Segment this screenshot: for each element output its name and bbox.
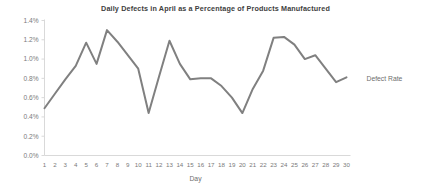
x-axis-tick-label: 7 — [105, 161, 109, 168]
x-axis-tick-label: 19 — [229, 161, 236, 168]
x-axis-tick-label: 5 — [84, 161, 88, 168]
x-axis-tick-label: 26 — [301, 161, 308, 168]
x-axis-tick-label: 13 — [166, 161, 173, 168]
x-axis-title: Day — [189, 175, 202, 183]
y-axis-tick-label: 1.2% — [23, 36, 38, 43]
x-axis-tick-label: 20 — [239, 161, 246, 168]
x-axis-tick-label: 8 — [116, 161, 120, 168]
x-axis-tick-label: 1 — [43, 161, 47, 168]
x-axis-tick-label: 14 — [176, 161, 183, 168]
x-axis-tick-label: 27 — [312, 161, 319, 168]
x-axis-tick-label: 17 — [208, 161, 215, 168]
x-axis-tick-label: 11 — [145, 161, 152, 168]
x-axis-tick-label: 9 — [126, 161, 130, 168]
x-axis-tick-label: 22 — [260, 161, 267, 168]
x-axis-tick-label: 6 — [95, 161, 99, 168]
x-axis-tick-label: 23 — [270, 161, 277, 168]
x-axis-tick-label: 21 — [249, 161, 256, 168]
x-axis-tick-label: 10 — [135, 161, 142, 168]
x-axis-tick-label: 3 — [64, 161, 68, 168]
x-axis-tick-label: 28 — [322, 161, 329, 168]
legend-label-defect-rate: Defect Rate — [367, 75, 403, 82]
y-axis-tick-label: 1.0% — [23, 55, 38, 62]
y-axis-tick-label: 0.8% — [23, 75, 38, 82]
x-axis: 1234567891011121314151617181920212223242… — [43, 156, 351, 183]
series-line-defect-rate — [45, 30, 347, 113]
x-axis-tick-label: 24 — [281, 161, 288, 168]
x-axis-tick-label: 16 — [197, 161, 204, 168]
data-series-group — [45, 30, 347, 113]
defect-rate-line-chart: Daily Defects in April as a Percentage o… — [0, 0, 431, 194]
x-axis-tick-label: 30 — [343, 161, 350, 168]
y-axis-tick-label: 0.6% — [23, 94, 38, 101]
chart-legend: Defect Rate — [367, 75, 403, 82]
x-axis-tick-label: 18 — [218, 161, 225, 168]
x-axis-tick-label: 4 — [74, 161, 78, 168]
x-axis-tick-label: 29 — [333, 161, 340, 168]
y-axis-tick-label: 0.2% — [23, 133, 38, 140]
x-axis-tick-label: 15 — [187, 161, 194, 168]
chart-plot-area: 0.0%0.2%0.4%0.6%0.8%1.0%1.2%1.4% 1234567… — [0, 0, 431, 194]
x-axis-tick-label: 12 — [156, 161, 163, 168]
y-axis-tick-label: 0.0% — [23, 152, 38, 159]
y-axis: 0.0%0.2%0.4%0.6%0.8%1.0%1.2%1.4% — [23, 17, 44, 159]
x-axis-tick-label: 2 — [53, 161, 57, 168]
y-axis-tick-label: 1.4% — [23, 17, 38, 24]
y-axis-tick-label: 0.4% — [23, 113, 38, 120]
x-axis-tick-label: 25 — [291, 161, 298, 168]
